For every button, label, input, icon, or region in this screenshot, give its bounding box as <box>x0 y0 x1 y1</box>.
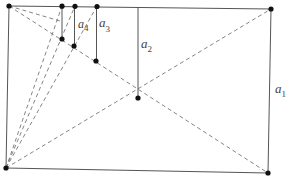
label-a2: a2 <box>141 36 152 54</box>
bottom-edge <box>6 168 268 173</box>
line-tl-short <box>9 6 60 21</box>
point-bottom-left <box>3 165 8 170</box>
line-bl-t3 <box>6 6 75 168</box>
point-top-left <box>6 3 11 8</box>
point-top-2 <box>94 4 99 9</box>
point-bottom-right <box>265 170 270 175</box>
point-mid-4 <box>59 36 64 41</box>
top-edge <box>9 6 271 9</box>
point-top-right <box>268 6 273 11</box>
rectangle-diagonal-diagram: a1 a2 a3 a4 <box>0 0 286 186</box>
point-mid-2 <box>93 58 98 63</box>
left-edge <box>6 6 9 168</box>
label-a4: a4 <box>78 17 89 33</box>
point-center <box>135 95 140 100</box>
point-top-3 <box>72 4 77 9</box>
label-a3: a3 <box>99 15 111 34</box>
labels: a1 a2 a3 a4 <box>78 15 286 99</box>
line-bl-t4 <box>6 6 62 168</box>
point-mid-3 <box>71 43 76 48</box>
right-edge-a1 <box>268 9 271 173</box>
label-a1: a1 <box>275 81 286 99</box>
point-top-4 <box>59 4 64 9</box>
